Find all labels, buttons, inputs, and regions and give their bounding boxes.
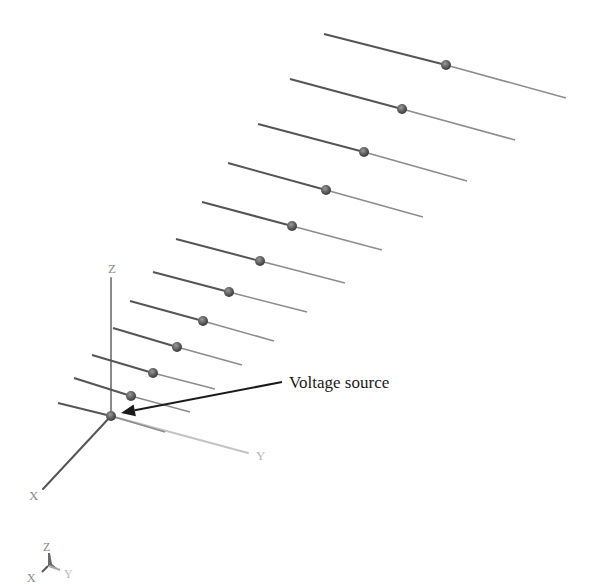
feed-point-icon [106, 411, 116, 421]
dipole-arm-right [364, 152, 467, 181]
dipole-element [324, 34, 566, 98]
feed-point-icon [441, 60, 451, 70]
dipole-arm-right [446, 65, 566, 98]
dipole-arm-left [176, 239, 260, 261]
dipole-arm-left [202, 202, 292, 226]
dipole-arm-left [228, 163, 326, 190]
feed-point-icon [397, 104, 407, 114]
dipole-element [290, 79, 515, 140]
orientation-triad: Z X Y [27, 540, 73, 584]
annotation-arrow-line [135, 382, 282, 410]
triad-z-label: Z [43, 540, 50, 554]
dipole-arm-left [324, 34, 446, 65]
triad-y-label: Y [64, 567, 73, 581]
dipole-element [113, 328, 242, 365]
dipole-arm-right [177, 347, 242, 365]
feed-point-icon [148, 368, 158, 378]
feed-point-icon [359, 147, 369, 157]
feed-point-icon [126, 391, 136, 401]
dipole-element [228, 163, 423, 217]
dipole-arm-left [58, 403, 111, 416]
dipole-arm-right [402, 109, 515, 140]
dipole-arm-right [111, 416, 165, 432]
dipole-arm-left [290, 79, 402, 109]
triad-x-label: X [27, 571, 36, 584]
arrowhead-icon [121, 404, 136, 416]
dipole-arm-left [258, 124, 364, 152]
dipole-element [176, 239, 345, 283]
dipole-arm-right [153, 373, 215, 389]
voltage-source-annotation: Voltage source [121, 373, 389, 416]
dipole-arm-right [229, 292, 307, 312]
dipole-arm-right [292, 226, 382, 250]
feed-point-icon [287, 221, 297, 231]
voltage-source-label: Voltage source [289, 373, 389, 392]
dipole-element [130, 301, 274, 341]
dipole-arm-left [130, 301, 203, 321]
dipole-element [258, 124, 467, 181]
y-axis-label: Y [256, 448, 266, 463]
triad-x-stub [42, 566, 48, 572]
dipole-element [153, 272, 307, 312]
dipole-arm-right [260, 261, 345, 283]
dipole-arm-left [113, 328, 177, 347]
antenna-diagram: Z Y X Voltage source Z X Y [0, 0, 608, 584]
feed-point-icon [198, 316, 208, 326]
feed-point-icon [224, 287, 234, 297]
dipole-arm-right [203, 321, 274, 341]
dipole-element [202, 202, 382, 250]
dipole-arm-left [153, 272, 229, 292]
feed-point-icon [172, 342, 182, 352]
coordinate-axes: Z Y X [29, 261, 266, 503]
x-axis-line [43, 416, 111, 489]
dipole-arm-left [92, 355, 153, 373]
z-axis-label: Z [108, 261, 116, 276]
x-axis-label: X [29, 488, 39, 503]
feed-point-icon [255, 256, 265, 266]
dipole-arm-right [326, 190, 423, 217]
feed-point-icon [321, 185, 331, 195]
dipole-arm-left [74, 378, 131, 396]
